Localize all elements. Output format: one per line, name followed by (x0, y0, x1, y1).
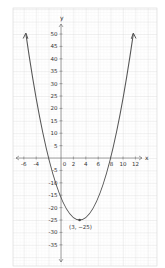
x-tick-label: 2 (72, 161, 76, 167)
parabola-graph: -6 -4 0 2 4 6 8 10 12 50 45 40 35 30 25 … (0, 0, 165, 268)
y-tick-label: 20 (51, 105, 58, 111)
y-tick-label: 5 (54, 143, 58, 149)
y-tick-label: 50 (51, 31, 58, 37)
y-tick-label: -20 (49, 205, 58, 211)
y-tick-label: 30 (51, 81, 58, 87)
y-tick-label: -30 (49, 229, 58, 235)
y-tick-label: 40 (51, 56, 58, 62)
x-tick-label: 6 (96, 161, 100, 167)
y-axis-label: y (60, 14, 64, 22)
x-axis-label: x (145, 154, 149, 161)
y-tick-label: -25 (49, 217, 58, 223)
y-tick-label: 35 (51, 68, 58, 74)
x-tick-label: 12 (132, 161, 139, 167)
y-tick-label: 10 (51, 130, 58, 136)
vertex-point (78, 219, 81, 222)
y-tick-label: 45 (51, 43, 58, 49)
y-tick-label: 25 (51, 93, 58, 99)
origin-label: 0 (63, 161, 67, 167)
x-tick-label: 10 (120, 161, 127, 167)
x-tick-label: -6 (21, 161, 27, 167)
x-tick-label: -4 (33, 161, 39, 167)
vertex-label: (3, −25) (69, 224, 92, 230)
x-tick-label: 4 (84, 161, 88, 167)
x-tick-label: 8 (110, 161, 114, 167)
y-tick-label: 15 (51, 118, 58, 124)
y-tick-label: -15 (49, 192, 58, 198)
y-tick-label: -35 (49, 242, 58, 248)
